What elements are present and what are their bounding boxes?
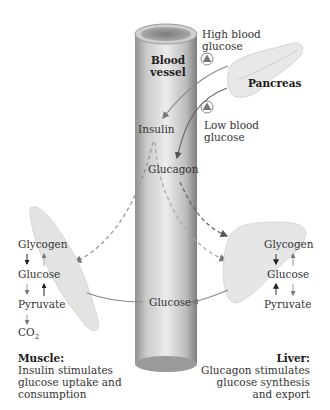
liver-description: Liver: Glucagon stimulates glucose synth… xyxy=(201,352,310,400)
liver-desc-line2: glucose synthesis xyxy=(201,376,310,388)
liver-glucose-label: Glucose xyxy=(267,268,309,280)
co2-subscript: 2 xyxy=(35,333,39,341)
muscle-co2-label: CO2 xyxy=(18,326,39,343)
high-glucose-sensor-icon xyxy=(201,53,213,65)
low-glucose-line2: glucose xyxy=(204,131,259,143)
high-blood-glucose-label: High blood glucose xyxy=(202,28,261,52)
muscle-description: Muscle: Insulin stimulates glucose uptak… xyxy=(18,352,122,400)
muscle-desc-line2: glucose uptake and xyxy=(18,376,122,388)
low-blood-glucose-label: Low blood glucose xyxy=(204,119,259,143)
co2-text: CO xyxy=(18,326,35,338)
glucagon-label: Glucagon xyxy=(148,163,198,175)
blood-vessel-label-line2: vessel xyxy=(143,66,193,78)
vessel-glucose-to-muscle-line xyxy=(87,293,143,302)
muscle-glycogen-label: Glycogen xyxy=(18,238,68,250)
liver-desc-line1: Glucagon stimulates xyxy=(201,364,310,376)
high-glucose-line2: glucose xyxy=(202,40,261,52)
pancreas-label: Pancreas xyxy=(248,77,301,89)
muscle-desc-line1: Insulin stimulates xyxy=(18,364,122,376)
liver-glucose-export-arrow xyxy=(192,290,228,302)
liver-organ xyxy=(223,222,306,303)
low-glucose-line1: Low blood xyxy=(204,119,259,131)
high-glucose-line1: High blood xyxy=(202,28,261,40)
muscle-pyruvate-label: Pyruvate xyxy=(18,298,65,310)
liver-glycogen-label: Glycogen xyxy=(264,238,314,250)
vessel-glucose-label: Glucose xyxy=(149,296,191,308)
muscle-glucose-label: Glucose xyxy=(18,268,60,280)
muscle-desc-line3: consumption xyxy=(18,388,122,400)
liver-pyruvate-label: Pyruvate xyxy=(264,298,311,310)
muscle-title: Muscle: xyxy=(18,352,122,364)
blood-vessel-label-line1: Blood xyxy=(143,54,193,66)
insulin-label: Insulin xyxy=(138,123,175,135)
liver-desc-line3: and export xyxy=(201,388,310,400)
blood-vessel-label: Blood vessel xyxy=(143,54,193,78)
liver-title: Liver: xyxy=(201,352,310,364)
